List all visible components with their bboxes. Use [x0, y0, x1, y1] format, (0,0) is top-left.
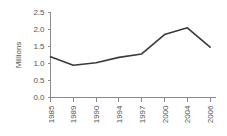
x-tick-marks: [51, 98, 211, 102]
line-chart: 0.00.51.01.52.02.5 Millions 198519891990…: [0, 0, 227, 136]
x-tick-label: 2004: [183, 105, 192, 123]
y-axis-title: Millions: [14, 42, 23, 69]
x-tick-label: 2006: [206, 105, 215, 123]
x-tick-label: 1985: [47, 105, 56, 123]
x-tick-label: 1997: [138, 105, 147, 123]
chart-canvas: 0.00.51.01.52.02.5 Millions 198519891990…: [0, 0, 227, 136]
y-axis: 0.00.51.01.52.02.5 Millions: [14, 8, 51, 102]
y-tick-label: 0.0: [33, 93, 45, 102]
x-axis: 19851989199019941997200020042006: [47, 98, 216, 124]
x-tick-label: 1994: [115, 105, 124, 123]
x-tick-label: 1989: [69, 105, 78, 123]
y-tick-label: 1.5: [33, 42, 45, 51]
x-tick-label: 1990: [92, 105, 101, 123]
y-tick-label: 0.5: [33, 76, 45, 85]
y-tick-label: 1.0: [33, 59, 45, 68]
x-tick-labels: 19851989199019941997200020042006: [47, 105, 216, 123]
y-tick-label: 2.0: [33, 25, 45, 34]
x-tick-label: 2000: [161, 105, 170, 123]
plot-area: [51, 28, 211, 65]
data-series-line: [51, 28, 211, 65]
y-tick-label: 2.5: [33, 8, 45, 17]
y-tick-labels: 0.00.51.01.52.02.5: [33, 8, 45, 102]
